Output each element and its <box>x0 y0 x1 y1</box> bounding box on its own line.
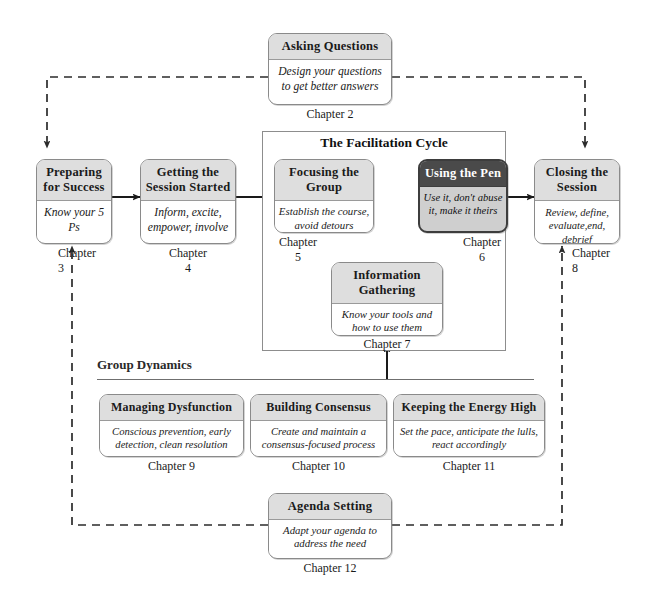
chapter-label-keeping-the-energy-high: Chapter 11 <box>393 459 545 474</box>
node-focusing-the-group-subtitle: Establish the course, avoid detours <box>275 201 373 233</box>
node-getting-the-session-started[interactable]: Getting the Session Started Inform, exci… <box>140 159 236 244</box>
node-agenda-setting-subtitle: Adapt your agenda to address the need <box>269 520 391 555</box>
node-managing-dysfunction-subtitle: Conscious prevention, early detection, c… <box>100 421 243 456</box>
node-closing-the-session-title: Closing the Session <box>535 160 619 201</box>
chapter-label-managing-dysfunction: Chapter 9 <box>99 459 244 474</box>
node-information-gathering[interactable]: Information Gathering Know your tools an… <box>331 262 443 336</box>
chapter-label-agenda-setting: Chapter 12 <box>268 561 392 576</box>
node-information-gathering-title: Information Gathering <box>332 263 442 304</box>
chapter-label-closing-the-session: Chapter 8 <box>572 246 638 275</box>
diagram-canvas: The Facilitation Cycle Group Dynamics As… <box>0 0 648 598</box>
chapter-label-getting-the-session-started: Chapter 4 <box>140 246 236 275</box>
node-asking-questions-subtitle: Design your questions to get better answ… <box>269 60 391 100</box>
node-focusing-the-group-title: Focusing the Group <box>275 160 373 201</box>
node-using-the-pen[interactable]: Using the Pen Use it, don't abuse it, ma… <box>418 159 508 233</box>
node-asking-questions[interactable]: Asking Questions Design your questions t… <box>268 33 392 105</box>
node-getting-the-session-started-subtitle: Inform, excite, empower, involve <box>141 201 235 241</box>
node-focusing-the-group[interactable]: Focusing the Group Establish the course,… <box>274 159 374 233</box>
node-preparing-for-success[interactable]: Preparing for Success Know your 5 Ps <box>36 159 112 244</box>
chapter-label-preparing-for-success: Chapter 3 <box>58 246 128 275</box>
node-information-gathering-subtitle: Know your tools and how to use them <box>332 304 442 336</box>
node-using-the-pen-title: Using the Pen <box>420 161 506 187</box>
node-keeping-the-energy-high-title: Keeping the Energy High <box>394 395 544 421</box>
node-getting-the-session-started-title: Getting the Session Started <box>141 160 235 201</box>
node-preparing-for-success-subtitle: Know your 5 Ps <box>37 201 111 241</box>
node-building-consensus-title: Building Consensus <box>251 395 386 421</box>
node-closing-the-session[interactable]: Closing the Session Review, define, eval… <box>534 159 620 244</box>
node-asking-questions-title: Asking Questions <box>269 34 391 60</box>
node-managing-dysfunction-title: Managing Dysfunction <box>100 395 243 421</box>
chapter-label-building-consensus: Chapter 10 <box>250 459 387 474</box>
chapter-label-focusing-the-group: Chapter 5 <box>270 235 326 264</box>
chapter-label-asking-questions: Chapter 2 <box>270 107 390 122</box>
node-using-the-pen-subtitle: Use it, don't abuse it, make it theirs <box>420 187 506 221</box>
group-dynamics-title: Group Dynamics <box>97 357 192 373</box>
node-agenda-setting[interactable]: Agenda Setting Adapt your agenda to addr… <box>268 493 392 559</box>
node-managing-dysfunction[interactable]: Managing Dysfunction Conscious preventio… <box>99 394 244 457</box>
node-keeping-the-energy-high-subtitle: Set the pace, anticipate the lulls, reac… <box>394 421 544 456</box>
node-closing-the-session-subtitle: Review, define, evaluate,end, debrief <box>535 201 619 244</box>
facilitation-cycle-title: The Facilitation Cycle <box>262 135 506 151</box>
node-agenda-setting-title: Agenda Setting <box>269 494 391 520</box>
node-building-consensus-subtitle: Create and maintain a consensus-focused … <box>251 421 386 456</box>
node-preparing-for-success-title: Preparing for Success <box>37 160 111 201</box>
node-building-consensus[interactable]: Building Consensus Create and maintain a… <box>250 394 387 457</box>
node-keeping-the-energy-high[interactable]: Keeping the Energy High Set the pace, an… <box>393 394 545 457</box>
chapter-label-using-the-pen: Chapter 6 <box>454 235 510 264</box>
chapter-label-information-gathering: Chapter 7 <box>331 337 443 352</box>
